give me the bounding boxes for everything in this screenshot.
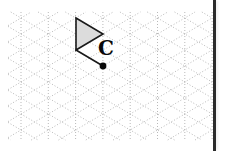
figure-screenshot: C — [0, 0, 228, 151]
center-of-rotation-point[interactable] — [100, 63, 107, 70]
triangle-label-c: C — [98, 38, 114, 58]
panel-right-border — [213, 0, 216, 151]
figure-layer — [0, 0, 228, 151]
